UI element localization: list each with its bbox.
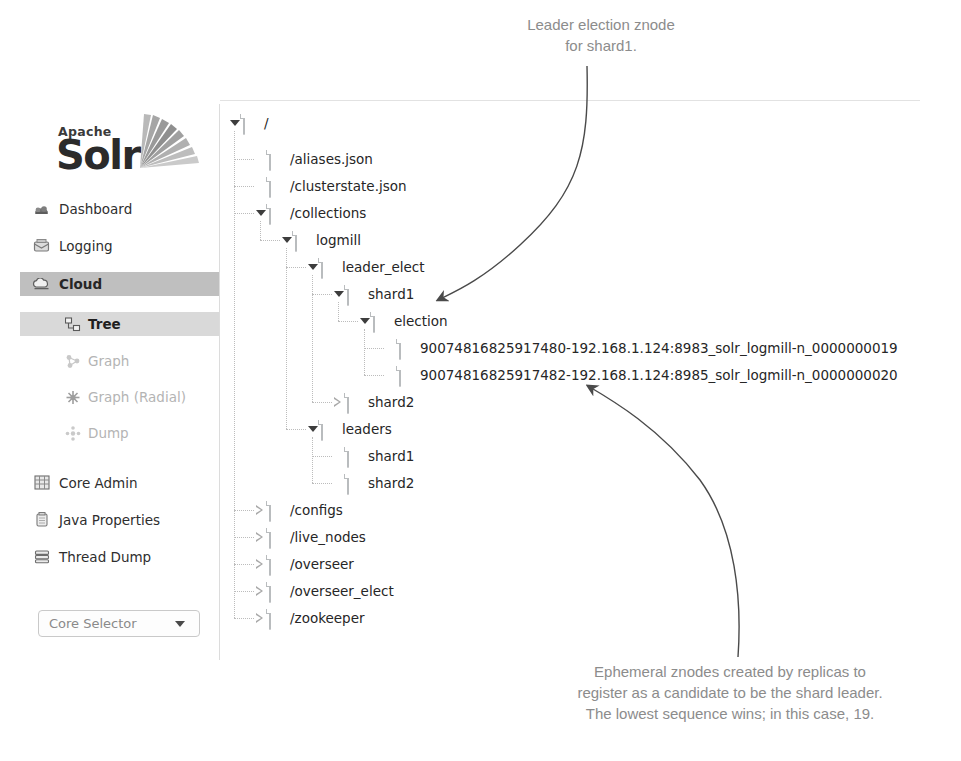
annotation-bottom: Ephemeral znodes created by replicas to … <box>520 661 940 724</box>
tree-node[interactable]: shard1 <box>332 284 414 304</box>
folder-glyph <box>269 204 271 225</box>
folder-icon <box>243 115 258 132</box>
sidebar-item-label: Thread Dump <box>59 549 151 565</box>
folder-icon <box>347 286 362 303</box>
triangle-down-icon <box>230 120 240 126</box>
solr-sunburst-icon <box>136 110 206 172</box>
file-glyph <box>347 474 349 495</box>
tree-connector-line <box>234 510 254 511</box>
tree-node[interactable]: /overseer_elect <box>254 581 394 601</box>
folder-icon <box>269 502 284 519</box>
tree-node[interactable]: /overseer <box>254 554 354 574</box>
tree-node[interactable]: /configs <box>254 500 343 520</box>
folder-glyph <box>347 285 349 306</box>
tree-node-label: / <box>264 115 269 131</box>
tree-connector-line <box>234 131 235 618</box>
file-glyph <box>269 150 271 171</box>
graph-radial-icon <box>64 389 81 405</box>
tree-connector-line <box>260 240 280 241</box>
graph-icon <box>64 353 81 369</box>
sidebar-item-thread-dump[interactable]: Thread Dump <box>20 546 220 567</box>
tree-connector-line <box>234 537 254 538</box>
tree-connector-line <box>312 437 313 483</box>
folder-icon <box>269 529 284 546</box>
tree-connector-line <box>364 375 384 376</box>
tree-node[interactable]: shard1 <box>332 446 414 466</box>
folder-glyph <box>269 528 271 549</box>
tree-node[interactable]: /clusterstate.json <box>254 176 407 196</box>
content-panel: //aliases.json/clusterstate.json/collect… <box>220 100 920 660</box>
cloud-icon <box>32 276 51 293</box>
tree-node[interactable]: /aliases.json <box>254 149 373 169</box>
tree-node[interactable]: 90074816825917480-192.168.1.124:8983_sol… <box>384 338 898 358</box>
tree-node[interactable]: leaders <box>306 419 392 439</box>
tree-node[interactable]: /live_nodes <box>254 527 366 547</box>
tree-node-label: /zookeeper <box>290 610 365 626</box>
tree-node[interactable]: logmill <box>280 230 361 250</box>
tree-connector-line <box>286 248 287 429</box>
sidebar-item-label: Core Admin <box>59 475 138 491</box>
logging-icon <box>32 237 51 254</box>
tree-connector-line <box>234 591 254 592</box>
triangle-right-icon <box>256 586 265 596</box>
triangle-right-icon <box>256 559 265 569</box>
tree-node-label: shard2 <box>368 394 414 410</box>
tree-connector-line <box>286 429 306 430</box>
file-glyph <box>399 366 401 387</box>
tree-node-label: /collections <box>290 205 366 221</box>
folder-glyph <box>269 555 271 576</box>
tree-connector-line <box>338 321 358 322</box>
tree-node[interactable]: leader_elect <box>306 257 425 277</box>
sidebar-item-core-admin[interactable]: Core Admin <box>20 472 220 493</box>
tree-node[interactable]: shard2 <box>332 392 414 412</box>
triangle-right-icon <box>256 613 265 623</box>
tree-connector-line <box>260 221 261 240</box>
tree-node[interactable]: /collections <box>254 203 366 223</box>
sidebar-subitem-label: Graph <box>88 353 129 369</box>
tree-node-label: shard1 <box>368 286 414 302</box>
core-selector-dropdown[interactable]: Core Selector <box>38 610 200 637</box>
java-properties-icon <box>32 511 51 528</box>
triangle-down-icon <box>360 318 370 324</box>
sidebar-subitem-tree[interactable]: Tree <box>20 312 219 336</box>
tree-node[interactable]: election <box>358 311 448 331</box>
folder-icon <box>347 394 362 411</box>
tree-node[interactable]: / <box>228 113 269 133</box>
file-icon <box>347 448 362 465</box>
tree-connector-line <box>312 483 332 484</box>
sidebar-subitem-dump[interactable]: Dump <box>20 422 220 444</box>
folder-glyph <box>243 114 245 135</box>
tree-node-label: /clusterstate.json <box>290 178 407 194</box>
sidebar-item-cloud[interactable]: Cloud <box>20 272 219 296</box>
tree-node[interactable]: shard2 <box>332 473 414 493</box>
folder-glyph <box>269 609 271 630</box>
folder-glyph <box>373 312 375 333</box>
sidebar-subitem-graph[interactable]: Graph <box>20 350 220 372</box>
tree-node[interactable]: 90074816825917482-192.168.1.124:8985_sol… <box>384 365 898 385</box>
tree-connector-line <box>312 402 332 403</box>
tree-connector-line <box>234 213 254 214</box>
file-icon <box>269 151 284 168</box>
file-icon <box>269 178 284 195</box>
folder-icon <box>321 421 336 438</box>
tree-node-label: leaders <box>342 421 392 437</box>
folder-icon <box>269 583 284 600</box>
tree-connector-line <box>234 618 254 619</box>
sidebar-subitem-graph-radial[interactable]: Graph (Radial) <box>20 386 220 408</box>
thread-dump-icon <box>32 548 51 565</box>
tree-connector-line <box>234 186 254 187</box>
sidebar-item-dashboard[interactable]: Dashboard <box>20 198 220 219</box>
tree-node[interactable]: /zookeeper <box>254 608 365 628</box>
triangle-right-icon <box>334 397 343 407</box>
tree-node-label: /live_nodes <box>290 529 366 545</box>
tree-node-label: 90074816825917480-192.168.1.124:8983_sol… <box>420 340 898 356</box>
folder-glyph <box>321 420 323 441</box>
tree-node-label: /overseer <box>290 556 354 572</box>
folder-glyph <box>347 393 349 414</box>
sidebar-subitem-label: Tree <box>88 316 121 332</box>
sidebar-item-logging[interactable]: Logging <box>20 235 220 256</box>
tree-connector-line <box>364 329 365 375</box>
tree-node-label: /overseer_elect <box>290 583 394 599</box>
sidebar-item-java-properties[interactable]: Java Properties <box>20 509 220 530</box>
tree-connector-line <box>364 348 384 349</box>
